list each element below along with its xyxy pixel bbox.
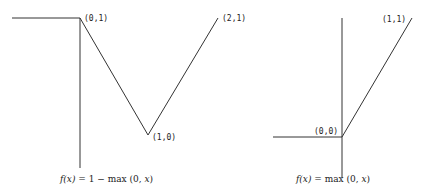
point-label-0-1: (0,1) <box>84 14 108 23</box>
caption-close: ) <box>150 174 154 184</box>
point-label-1-0: (1,0) <box>152 133 176 142</box>
left-caption: f(x) = 1 − max (0, x) <box>60 174 153 184</box>
caption-function: f(x) <box>296 174 311 184</box>
left-diagram <box>12 18 218 168</box>
right-caption: f(x) = max (0, x) <box>296 174 370 184</box>
left-descending-segment <box>80 18 148 135</box>
left-ascending-segment <box>148 18 218 135</box>
right-diagram <box>273 18 412 178</box>
diagram-canvas: (0,1) (1,0) (2,1) (0,0) (1,1) <box>0 0 423 193</box>
right-ascending-segment <box>342 18 412 137</box>
caption-function: f(x) <box>60 174 75 184</box>
point-label-2-1: (2,1) <box>222 14 246 23</box>
caption-equation: = 1 − max (0, <box>75 174 144 184</box>
point-label-1-1: (1,1) <box>382 15 406 24</box>
caption-close: ) <box>367 174 371 184</box>
caption-equation: = max (0, <box>311 174 361 184</box>
point-label-0-0: (0,0) <box>314 127 338 136</box>
